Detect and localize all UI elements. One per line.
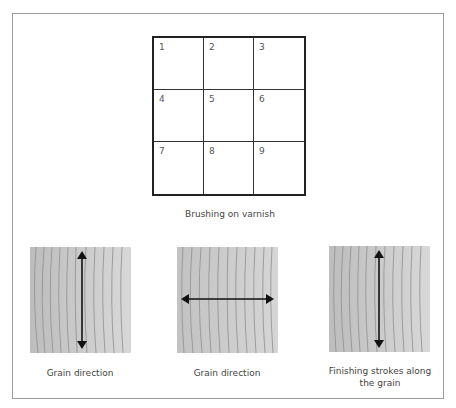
- panel-3-caption: Finishing strokes along the grain: [320, 365, 440, 389]
- grid-cell-3: 3: [254, 38, 304, 90]
- grid-cell-4: 4: [154, 90, 204, 142]
- diagram-title: Brushing on varnish: [170, 208, 290, 220]
- wood-panel-vertical-1: [30, 247, 131, 353]
- grid-cell-2: 2: [204, 38, 254, 90]
- panel-1-caption: Grain direction: [25, 367, 135, 379]
- grid-cell-1: 1: [154, 38, 204, 90]
- grid-cell-7: 7: [154, 142, 204, 194]
- panel-2-caption: Grain direction: [172, 367, 282, 379]
- grid-cell-5: 5: [204, 90, 254, 142]
- wood-panel-vertical-2: [329, 246, 430, 352]
- wood-panel-horizontal: [177, 247, 278, 353]
- grid-cell-6: 6: [254, 90, 304, 142]
- grid-cell-9: 9: [254, 142, 304, 194]
- grid-cell-8: 8: [204, 142, 254, 194]
- brushing-grid: 1 2 3 4 5 6 7 8 9: [152, 36, 306, 196]
